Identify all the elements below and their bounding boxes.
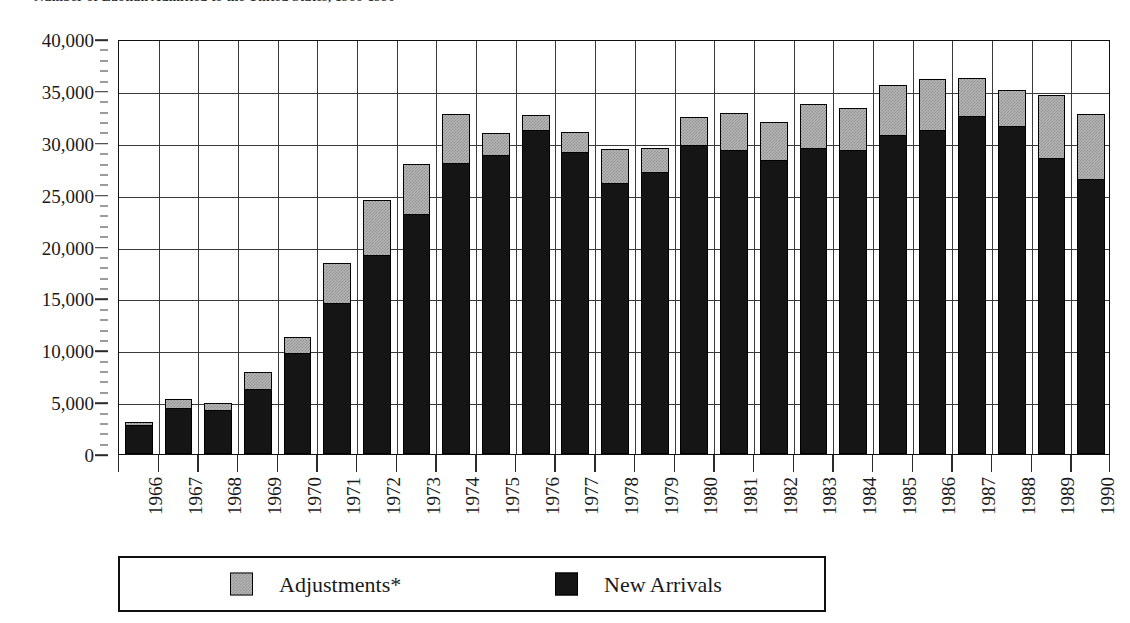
x-axis-label-1978: 1978 [622,477,641,515]
bar-1982[interactable] [760,39,788,454]
bar-1980[interactable] [680,39,708,454]
vertical-gridline [238,41,239,454]
y-axis-minor-tick [100,112,108,113]
bar-1973[interactable] [403,39,431,454]
vertical-gridline [278,41,279,454]
bar-1975[interactable] [482,39,510,454]
x-axis-tick [475,455,476,472]
bar-segment-new-arrivals [244,390,272,454]
y-axis-minor-tick [100,268,108,269]
y-axis-minor-tick [100,81,108,82]
bar-1977[interactable] [561,39,589,454]
bar-segment-new-arrivals [958,117,986,454]
bar-segment-adjustments [958,78,986,116]
chart-legend: Adjustments* New Arrivals [118,556,826,612]
bar-1969[interactable] [244,39,272,454]
bar-1981[interactable] [720,39,748,454]
y-axis-tick-label: 0 [85,446,95,465]
bar-1989[interactable] [1038,39,1066,454]
x-axis-tick [118,455,119,472]
y-axis-minor-tick [100,413,108,414]
bar-segment-new-arrivals [442,164,470,455]
bar-1984[interactable] [839,39,867,454]
bar-1979[interactable] [641,39,669,454]
vertical-gridline [1071,41,1072,454]
bar-1968[interactable] [204,39,232,454]
chart-title: Number of Laotian Admitted to the United… [34,0,395,5]
bar-segment-adjustments [244,372,272,390]
legend-label-new-arrivals: New Arrivals [604,573,722,595]
y-axis-minor-tick [100,102,108,103]
y-axis-tick-label: 30,000 [42,134,94,153]
x-axis-label-1990: 1990 [1098,477,1117,515]
y-axis-minor-tick [100,340,108,341]
bar-segment-new-arrivals [601,184,629,454]
bar-segment-adjustments [323,263,351,303]
bar-segment-new-arrivals [839,151,867,454]
bar-1986[interactable] [919,39,947,454]
x-axis-tick [1070,455,1071,472]
bar-segment-adjustments [125,422,153,426]
bar-1985[interactable] [879,39,907,454]
bar-1988[interactable] [998,39,1026,454]
bar-1987[interactable] [958,39,986,454]
bar-segment-adjustments [641,148,669,173]
bar-segment-new-arrivals [284,354,312,454]
y-axis-tick-label: 5,000 [51,394,94,413]
plot-area [118,40,1110,455]
bar-segment-adjustments [680,117,708,146]
bar-segment-new-arrivals [323,304,351,454]
x-axis-label-1988: 1988 [1019,477,1038,515]
y-axis-minor-tick [100,278,108,279]
legend-item-new-arrivals[interactable]: New Arrivals [555,573,722,596]
bar-segment-adjustments [482,133,510,156]
bar-segment-adjustments [522,115,550,132]
bar-segment-adjustments [998,90,1026,127]
x-axis-tick [197,455,198,472]
x-axis-label-1987: 1987 [979,477,998,515]
x-axis-tick [793,455,794,472]
y-axis-minor-tick [100,309,108,310]
y-axis-minor-tick [100,320,108,321]
bar-1974[interactable] [442,39,470,454]
x-axis-tick [713,455,714,472]
bar-1972[interactable] [363,39,391,454]
bar-segment-adjustments [403,164,431,216]
y-axis-minor-tick [100,174,108,175]
bar-1967[interactable] [165,39,193,454]
bar-1966[interactable] [125,39,153,454]
bar-segment-adjustments [561,132,589,153]
y-axis-minor-tick [100,60,108,61]
y-axis-tick [95,299,108,301]
chart-root: Number of Laotian Admitted to the United… [0,0,1130,623]
x-axis-tick [674,455,675,472]
bar-segment-adjustments [1038,95,1066,159]
x-axis-label-1973: 1973 [424,477,443,515]
x-axis-label-1974: 1974 [463,477,482,515]
bar-1990[interactable] [1077,39,1105,454]
bar-segment-new-arrivals [522,131,550,454]
y-axis-minor-tick [100,361,108,362]
y-axis-minor-tick [100,164,108,165]
y-axis-minor-tick [100,434,108,435]
y-axis-tick-label: 15,000 [42,290,94,309]
y-axis-minor-tick [100,185,108,186]
bar-1978[interactable] [601,39,629,454]
bar-1971[interactable] [323,39,351,454]
bar-segment-adjustments [720,113,748,151]
x-axis-tick [753,455,754,472]
bar-segment-adjustments [442,114,470,164]
x-axis-label-1985: 1985 [900,477,919,515]
x-axis-tick [435,455,436,472]
legend-item-adjustments[interactable]: Adjustments* [230,573,401,596]
bar-1983[interactable] [800,39,828,454]
bar-1976[interactable] [522,39,550,454]
y-axis-minor-tick [100,330,108,331]
bar-segment-adjustments [919,79,947,131]
bar-1970[interactable] [284,39,312,454]
y-axis-minor-tick [100,50,108,51]
vertical-gridline [675,41,676,454]
x-axis-label-1970: 1970 [305,477,324,515]
x-axis-label-1981: 1981 [741,477,760,515]
y-axis-tick [95,350,108,352]
